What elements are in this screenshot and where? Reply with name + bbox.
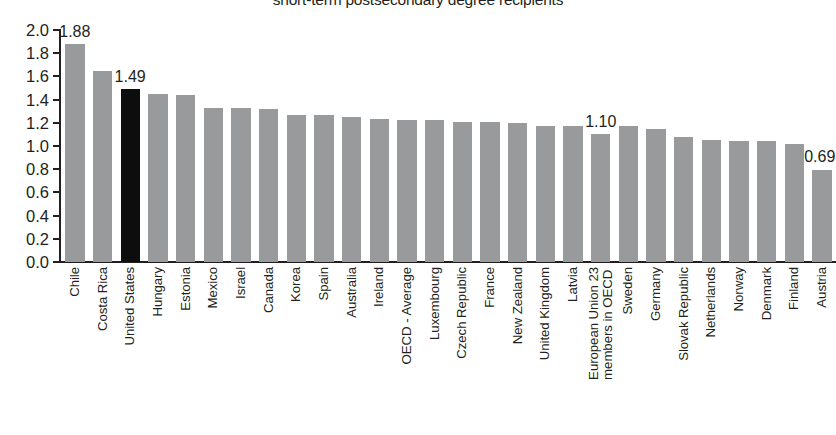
x-axis-label: Canada — [262, 267, 276, 313]
x-axis-label-line: European Union 23 — [587, 267, 601, 380]
bar — [370, 119, 389, 262]
bar — [342, 117, 361, 262]
x-axis-label: Sweden — [622, 267, 636, 314]
x-axis-label: Spain — [317, 267, 331, 301]
x-axis-label: Chile — [68, 267, 82, 297]
x-axis-label: Finland — [788, 267, 802, 310]
bar — [204, 108, 223, 262]
y-axis-tick — [53, 75, 60, 77]
bar — [480, 122, 499, 262]
y-axis-tick-label: 2.0 — [0, 22, 49, 38]
bar — [65, 44, 84, 262]
x-axis-label: Estonia — [179, 267, 193, 311]
bar — [674, 137, 693, 262]
x-axis-label: Denmark — [760, 267, 774, 320]
x-axis-label: Hungary — [151, 267, 165, 317]
bar — [397, 120, 416, 262]
x-axis-label: European Union 23members in OECD — [587, 267, 614, 380]
bar — [287, 115, 306, 262]
y-axis-tick — [53, 52, 60, 54]
y-axis-tick — [53, 215, 60, 217]
y-axis-tick-label: 1.6 — [0, 68, 49, 84]
y-axis-tick — [53, 145, 60, 147]
x-axis-label: Ireland — [373, 267, 387, 307]
y-axis-tick-label: 1.2 — [0, 115, 49, 131]
y-axis-tick-label: 1.8 — [0, 45, 49, 61]
x-axis-label: Korea — [289, 267, 303, 302]
x-axis-label: Latvia — [566, 267, 580, 302]
y-axis-tick-label: 0.8 — [0, 161, 49, 177]
bar — [121, 89, 140, 262]
x-axis-label: Mexico — [206, 267, 220, 309]
y-axis-tick-label: 0.6 — [0, 184, 49, 200]
bar — [591, 134, 610, 262]
bar-value-label: 1.49 — [100, 69, 160, 85]
bar-value-label: 0.69 — [804, 149, 836, 165]
bar — [619, 126, 638, 262]
x-axis-label: Germany — [649, 267, 663, 321]
y-axis-tick-label: 0.0 — [0, 254, 49, 270]
x-axis-label: Australia — [345, 267, 359, 318]
bar — [508, 123, 527, 262]
x-axis-label: Austria — [815, 267, 829, 308]
y-axis-tick-label: 1.4 — [0, 92, 49, 108]
y-axis-tick — [53, 99, 60, 101]
bar — [259, 109, 278, 262]
bar-value-label: 1.10 — [571, 114, 631, 130]
bar — [536, 126, 555, 262]
bar — [93, 71, 112, 262]
bar — [646, 129, 665, 262]
bar — [785, 144, 804, 262]
x-axis-label: United Kingdom — [539, 267, 553, 360]
y-axis-tick-label: 0.2 — [0, 231, 49, 247]
y-axis-tick — [53, 122, 60, 124]
x-axis-label: Netherlands — [705, 267, 719, 338]
bar — [729, 141, 748, 262]
chart-title: short-term postsecondary degree recipien… — [0, 0, 836, 9]
bar — [231, 108, 250, 262]
y-axis-tick-label: 1.0 — [0, 138, 49, 154]
x-axis-label: Norway — [732, 267, 746, 311]
x-axis-label: Israel — [234, 267, 248, 299]
x-axis-label: France — [483, 267, 497, 308]
bar — [314, 115, 333, 262]
bar-value-label: 1.88 — [45, 24, 105, 40]
y-axis-tick — [53, 238, 60, 240]
y-axis-tick-label: 0.4 — [0, 208, 49, 224]
bar — [148, 94, 167, 262]
y-axis-tick — [53, 168, 60, 170]
y-axis-tick — [53, 191, 60, 193]
bar — [563, 126, 582, 262]
x-axis-label: United States — [123, 267, 137, 346]
x-axis-label: Czech Republic — [456, 267, 470, 359]
bar — [757, 141, 776, 262]
bar — [176, 95, 195, 262]
x-axis-label: Luxembourg — [428, 267, 442, 340]
x-axis-label: OECD - Average — [400, 267, 414, 364]
bar — [425, 120, 444, 262]
bar-chart: short-term postsecondary degree recipien… — [0, 0, 836, 435]
y-axis-tick — [53, 261, 60, 263]
x-axis-label: Costa Rica — [96, 267, 110, 331]
x-axis-label: Slovak Republic — [677, 267, 691, 361]
bar — [702, 140, 721, 262]
x-axis-label-line: members in OECD — [601, 267, 615, 380]
bar — [453, 122, 472, 262]
x-axis-label: New Zealand — [511, 267, 525, 344]
bar — [812, 170, 831, 262]
